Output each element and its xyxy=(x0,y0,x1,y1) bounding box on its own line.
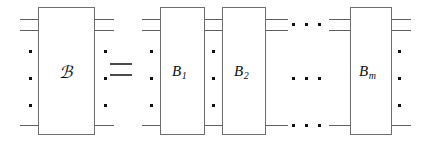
vertical-ellipsis-dot-left-3 xyxy=(29,104,32,107)
wire-left-out-top-1 xyxy=(95,19,114,20)
wire-b1-in-top-1 xyxy=(142,19,161,20)
vertical-ellipsis-dot-bm-out-3 xyxy=(398,104,401,107)
wire-bm-out-bottom xyxy=(392,125,411,126)
gate-label-b1: B1 xyxy=(172,64,187,81)
vertical-ellipsis-dot-b1-in-1 xyxy=(150,50,153,53)
ellipsis-dot xyxy=(305,77,308,80)
ellipsis-dot xyxy=(305,23,308,26)
gate-label-b2-base: B xyxy=(234,63,243,79)
wire-left-out-top-2 xyxy=(95,30,114,31)
ellipsis-dot xyxy=(305,124,308,127)
equals-bar-top xyxy=(110,63,132,65)
wire-bm-in-top-2 xyxy=(329,30,351,31)
wire-bm-in-top-1 xyxy=(329,19,351,20)
wire-left-out-bottom xyxy=(95,125,114,126)
wire-bm-out-top-2 xyxy=(392,30,411,31)
wire-b1-b2-top-1 xyxy=(205,19,223,20)
gate-label-b2: B2 xyxy=(234,64,249,81)
vertical-ellipsis-dot-right-2 xyxy=(104,77,107,80)
vertical-ellipsis-dot-b1-b2-3 xyxy=(212,104,215,107)
vertical-ellipsis-dot-b1-in-2 xyxy=(150,77,153,80)
ellipsis-dot xyxy=(292,124,295,127)
ellipsis-dot xyxy=(318,124,321,127)
circuit-diagram-figure: ℬ B1 B2 xyxy=(0,0,430,143)
equals-bar-bottom xyxy=(110,74,132,76)
wire-bm-in-bottom xyxy=(329,125,351,126)
vertical-ellipsis-dot-b1-in-3 xyxy=(150,104,153,107)
gate-label-b1-base: B xyxy=(172,63,181,79)
wire-left-in-bottom xyxy=(20,125,39,126)
vertical-ellipsis-dot-b1-b2-1 xyxy=(212,50,215,53)
ellipsis-dot xyxy=(292,77,295,80)
horizontal-ellipsis-bottom xyxy=(292,124,321,127)
horizontal-ellipsis-middle xyxy=(292,77,321,80)
vertical-ellipsis-dot-right-3 xyxy=(104,104,107,107)
wire-b1-in-top-2 xyxy=(142,30,161,31)
ellipsis-dot xyxy=(318,77,321,80)
ellipsis-dot xyxy=(318,23,321,26)
wire-b1-in-bottom xyxy=(142,125,161,126)
gate-label-b2-subscript: 2 xyxy=(243,70,249,81)
gate-label-script-o: ℬ xyxy=(59,64,72,81)
ellipsis-dot xyxy=(292,23,295,26)
wire-b1-b2-bottom xyxy=(205,125,223,126)
vertical-ellipsis-dot-b1-b2-2 xyxy=(212,77,215,80)
gate-label-bm-subscript: m xyxy=(368,70,376,81)
gate-label-bm: Bm xyxy=(359,64,376,81)
vertical-ellipsis-dot-left-1 xyxy=(29,50,32,53)
wire-left-in-top-2 xyxy=(20,30,39,31)
wire-left-in-top-1 xyxy=(20,19,39,20)
gate-label-b1-subscript: 1 xyxy=(181,70,187,81)
wire-b2-out-top-1 xyxy=(266,19,288,20)
gate-label-bm-base: B xyxy=(359,63,368,79)
vertical-ellipsis-dot-bm-out-2 xyxy=(398,77,401,80)
wire-b2-out-top-2 xyxy=(266,30,288,31)
vertical-ellipsis-dot-bm-out-1 xyxy=(398,50,401,53)
wire-b2-out-bottom xyxy=(266,125,288,126)
equals-sign xyxy=(110,63,132,76)
vertical-ellipsis-dot-left-2 xyxy=(29,77,32,80)
vertical-ellipsis-dot-right-1 xyxy=(104,50,107,53)
horizontal-ellipsis-top xyxy=(292,23,321,26)
wire-b1-b2-top-2 xyxy=(205,30,223,31)
wire-bm-out-top-1 xyxy=(392,19,411,20)
